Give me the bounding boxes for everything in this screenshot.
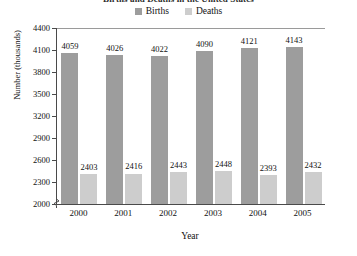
y-axis-tick-mark (52, 204, 56, 205)
bar-group: 41432432 (286, 28, 322, 204)
legend-entry-deaths: Deaths (185, 6, 222, 16)
y-axis-tick-mark (52, 182, 56, 183)
x-axis-tick-label: 2003 (191, 208, 236, 218)
y-axis-tick-label: 2300 (33, 178, 50, 187)
bar-group: 41212393 (241, 28, 277, 204)
plot-area: 4059240340262416402224434090244841212393… (56, 28, 325, 204)
bar-deaths-2002 (170, 172, 187, 204)
y-axis-tick-mark (52, 116, 56, 117)
bar-chart: Births and Deaths in the United States B… (0, 0, 357, 256)
y-axis-tick-label: 3200 (33, 112, 50, 121)
bar-value-label: 2403 (74, 163, 103, 172)
bar-value-label: 4090 (190, 40, 219, 49)
chart-title: Births and Deaths in the United States (0, 0, 357, 3)
legend-label-births: Births (146, 6, 169, 16)
bar-group: 40902448 (196, 28, 232, 204)
bar-births-2002 (151, 56, 168, 204)
legend-swatch-births (135, 8, 142, 15)
legend-label-deaths: Deaths (196, 6, 222, 16)
y-axis-tick-label: 2900 (33, 134, 50, 143)
bar-value-label: 2416 (119, 162, 148, 171)
bar-deaths-2004 (260, 175, 277, 204)
y-axis-tick-label: 3500 (33, 90, 50, 99)
x-axis-tick-label: 2004 (235, 208, 280, 218)
y-axis-tick-mark (52, 94, 56, 95)
bar-deaths-2001 (125, 174, 142, 205)
y-axis-tick-label: 4400 (33, 24, 50, 33)
x-axis-tick-label: 2001 (101, 208, 146, 218)
bar-value-label: 2448 (209, 160, 238, 169)
bar-group: 40222443 (151, 28, 187, 204)
x-axis-tick-label: 2002 (146, 208, 191, 218)
x-axis-title: Year (55, 231, 325, 241)
bar-value-label: 2443 (164, 161, 193, 170)
bar-births-2003 (196, 51, 213, 204)
bar-value-label: 4059 (55, 42, 84, 51)
x-axis-tick-labels: 200020012002200320042005 (56, 208, 325, 222)
bar-value-label: 4143 (280, 36, 309, 45)
y-axis-tick-label: 2600 (33, 156, 50, 165)
bar-deaths-2000 (80, 174, 97, 204)
bar-value-label: 2432 (299, 161, 328, 170)
y-axis-tick-label: 2000 (33, 200, 50, 209)
bar-births-2001 (106, 55, 123, 204)
y-axis-tick-mark (52, 138, 56, 139)
chart-legend: Births Deaths (0, 6, 357, 16)
bar-group: 40262416 (106, 28, 142, 204)
bar-value-label: 4022 (145, 45, 174, 54)
bar-groups: 4059240340262416402224434090244841212393… (57, 28, 325, 204)
y-axis-tick-mark (52, 28, 56, 29)
bar-deaths-2005 (305, 172, 322, 204)
x-axis-tick-label: 2000 (56, 208, 101, 218)
legend-entry-births: Births (135, 6, 169, 16)
y-axis-tick-label: 4100 (33, 46, 50, 55)
x-axis-line (56, 204, 325, 205)
bar-value-label: 4026 (100, 44, 129, 53)
bar-births-2005 (286, 47, 303, 204)
bar-deaths-2003 (215, 171, 232, 204)
bar-group: 40592403 (61, 28, 97, 204)
x-axis-tick-label: 2005 (280, 208, 325, 218)
y-axis-tick-labels: 440041003800350032002900260023002000 (18, 28, 50, 204)
legend-swatch-deaths (185, 8, 192, 15)
y-axis-tick-mark (52, 72, 56, 73)
bar-births-2000 (61, 53, 78, 204)
y-axis-tick-label: 3800 (33, 68, 50, 77)
bar-value-label: 4121 (235, 37, 264, 46)
y-axis-tick-mark (52, 160, 56, 161)
bar-births-2004 (241, 48, 258, 204)
bar-value-label: 2393 (254, 164, 283, 173)
